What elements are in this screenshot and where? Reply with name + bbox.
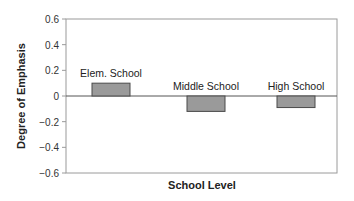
y-axis-label: Degree of Emphasis bbox=[15, 43, 27, 149]
bar-category-label: High School bbox=[268, 80, 325, 92]
y-tick-label: −0.4 bbox=[39, 142, 59, 153]
bars: Elem. SchoolMiddle SchoolHigh School bbox=[80, 67, 324, 111]
bar bbox=[277, 96, 315, 108]
bar-chart: 0.60.40.20−0.2−0.4−0.6 Elem. SchoolMiddl… bbox=[0, 0, 354, 201]
bar bbox=[187, 96, 225, 111]
y-tick-label: −0.2 bbox=[39, 117, 59, 128]
bar bbox=[92, 83, 130, 96]
y-tick-label: 0 bbox=[53, 91, 59, 102]
y-tick-label: 0.4 bbox=[45, 40, 59, 51]
bar-category-label: Elem. School bbox=[80, 67, 142, 79]
y-tick-label: −0.6 bbox=[39, 168, 59, 179]
y-axis: 0.60.40.20−0.2−0.4−0.6 bbox=[39, 14, 66, 179]
y-tick-label: 0.6 bbox=[45, 14, 59, 25]
bar-category-label: Middle School bbox=[173, 80, 239, 92]
y-tick-label: 0.2 bbox=[45, 65, 59, 76]
x-axis-label: School Level bbox=[168, 179, 236, 191]
